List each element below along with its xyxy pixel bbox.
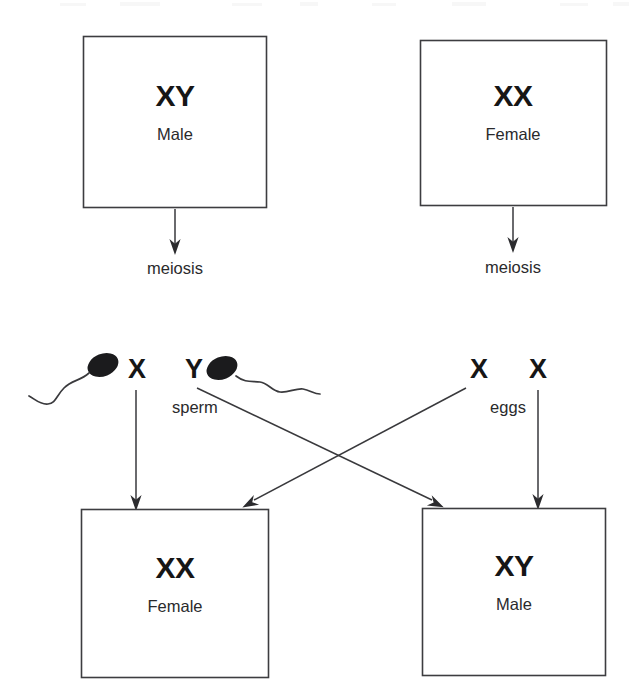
sperm-label-group: sperm (142, 395, 218, 418)
sperm-chromosome-x: X (128, 354, 146, 384)
mother-meiosis-arrow (507, 207, 518, 253)
parent-father-box: XY Male (84, 37, 267, 208)
page-scan-artifacts (60, 2, 629, 6)
sperm-cell-icon-1 (29, 349, 122, 404)
arrow-sperm-y-to-son (197, 388, 446, 512)
parent-mother-box: XX Female (421, 41, 607, 206)
egg-chromosome-x-1: X (470, 354, 488, 384)
arrow-egg-x-to-son (532, 390, 543, 510)
mother-genotype-label: XX (493, 79, 533, 112)
son-genotype-label: XY (494, 549, 534, 582)
sperm-chromosome-y: Y (185, 354, 203, 384)
sex-determination-diagram: XY Male XX Female meiosis meiosis (0, 0, 644, 699)
daughter-sex-label: Female (147, 597, 202, 615)
sperm-cell-icon-2 (203, 352, 320, 394)
offspring-son-box: XY Male (423, 509, 606, 676)
eggs-label-group: eggs (486, 395, 532, 418)
mother-meiosis-label: meiosis (485, 258, 541, 276)
arrow-sperm-x-to-daughter (130, 390, 141, 511)
mother-sex-label: Female (485, 125, 540, 143)
diagram-canvas: XY Male XX Female meiosis meiosis (0, 0, 644, 699)
daughter-genotype-label: XX (155, 551, 195, 584)
offspring-daughter-box: XX Female (82, 510, 269, 678)
father-meiosis-arrow (169, 209, 180, 255)
father-genotype-label: XY (155, 79, 195, 112)
eggs-label: eggs (490, 398, 526, 416)
egg-chromosome-x-2: X (529, 354, 547, 384)
father-sex-label: Male (157, 125, 193, 143)
sperm-label: sperm (172, 398, 218, 416)
arrow-egg-x-to-daughter (240, 388, 466, 512)
son-sex-label: Male (496, 595, 532, 613)
father-meiosis-label: meiosis (147, 259, 203, 277)
